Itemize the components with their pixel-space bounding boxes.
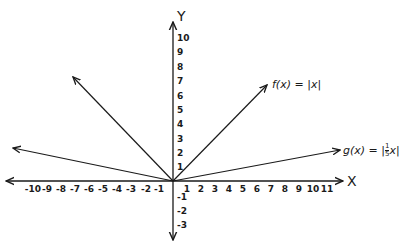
x-tick: -5 [98,184,108,194]
g-label-suffix: x| [389,144,399,157]
y-tick: 6 [177,91,183,101]
y-tick: 9 [177,47,183,57]
y-tick: -2 [177,206,187,216]
x-tick: -1 [154,184,164,194]
y-tick: 5 [177,105,183,115]
x-tick: 4 [226,184,232,194]
x-tick: -4 [112,184,122,194]
y-tick: 2 [177,148,183,158]
x-tick: 11 [321,184,334,194]
y-tick: 8 [177,62,183,72]
x-tick: 8 [282,184,288,194]
x-tick: -7 [70,184,80,194]
x-tick: 10 [307,184,320,194]
x-tick: 2 [198,184,204,194]
x-tick: 7 [268,184,274,194]
y-tick: 4 [177,119,183,129]
f-line-left [73,77,173,181]
x-tick: -10 [25,184,41,194]
x-tick: -9 [42,184,52,194]
graph-canvas: Y X -10 -9 -8 -7 -6 -5 -4 -3 -2 -1 1 2 3… [0,0,415,252]
x-tick: -8 [56,184,66,194]
x-tick: 9 [296,184,302,194]
y-tick: 10 [177,33,190,43]
y-tick: 7 [177,76,183,86]
y-tick: 1 [177,162,183,172]
g-line-left [13,148,173,181]
y-tick: 3 [177,134,183,144]
f-function-label: f(x) = |x| [272,78,321,91]
x-axis-label: X [347,173,357,189]
y-axis-label: Y [177,8,186,24]
y-tick: -3 [177,220,187,230]
x-tick: 3 [212,184,218,194]
g-function-label: g(x) = |15x| [343,143,400,158]
x-tick: -2 [141,184,151,194]
g-label-prefix: g(x) = | [343,144,385,157]
graph-svg [0,0,415,252]
y-tick: -1 [177,192,187,202]
x-tick: -3 [126,184,136,194]
x-tick: -6 [84,184,94,194]
x-tick: 6 [254,184,260,194]
x-tick: 5 [240,184,246,194]
